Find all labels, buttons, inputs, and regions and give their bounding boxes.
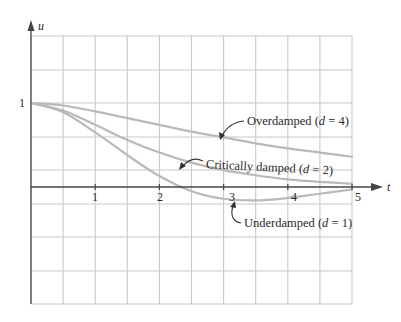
annotation-overdamped-post: = 4) bbox=[325, 114, 349, 128]
annotation-overdamped: Overdamped (d = 4) bbox=[247, 115, 349, 128]
annotation-underdamped-pre: Underdamped ( bbox=[244, 216, 322, 230]
x-tick-label-5: 5 bbox=[355, 191, 361, 203]
annotation-critical-post: = 2) bbox=[309, 162, 333, 177]
damping-chart bbox=[0, 0, 401, 322]
y-axis-arrow-icon bbox=[28, 20, 35, 31]
x-tick-label-2: 2 bbox=[157, 191, 163, 203]
x-tick-label-1: 1 bbox=[92, 191, 98, 203]
y-axis-label: u bbox=[38, 20, 44, 32]
annotation-underdamped-post: = 1) bbox=[328, 216, 352, 230]
x-tick-label-4: 4 bbox=[291, 191, 297, 203]
x-axis-arrow-icon bbox=[371, 183, 383, 191]
x-axis-label: t bbox=[387, 181, 390, 193]
underdamped-arrow-icon bbox=[232, 206, 241, 223]
annotation-underdamped: Underdamped (d = 1) bbox=[244, 217, 352, 230]
annotation-overdamped-pre: Overdamped ( bbox=[247, 114, 319, 128]
x-tick-label-3: 3 bbox=[229, 191, 235, 203]
overdamped-arrow-icon bbox=[222, 121, 244, 136]
y-tick-label-1: 1 bbox=[19, 97, 25, 109]
